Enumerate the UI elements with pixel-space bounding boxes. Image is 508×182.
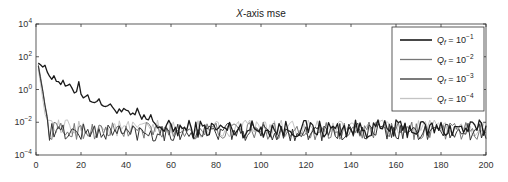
y-tick-label: 10−2 [15, 115, 33, 127]
x-tick-label: 180 [433, 160, 448, 170]
chart-title: X-axis mse [235, 8, 286, 19]
legend: Qf = 10−1Qf = 10−2Qf = 10−3Qf = 10−4 [392, 27, 484, 111]
mse-chart: X-axis mse 020406080100120140160180200 1… [0, 0, 508, 182]
x-tick-label: 80 [211, 160, 221, 170]
x-tick-label: 120 [298, 160, 313, 170]
x-tick-label: 200 [478, 160, 493, 170]
x-tick-label: 20 [76, 160, 86, 170]
y-tick-label: 102 [18, 50, 32, 62]
y-tick-label: 10−4 [15, 148, 33, 160]
x-tick-label: 60 [166, 160, 176, 170]
x-tick-label: 160 [388, 160, 403, 170]
y-tick-label: 100 [18, 83, 32, 95]
x-tick-label: 100 [253, 160, 268, 170]
x-tick-label: 140 [343, 160, 358, 170]
x-tick-label: 0 [33, 160, 38, 170]
y-tick-label: 104 [18, 17, 32, 29]
x-tick-label: 40 [121, 160, 131, 170]
